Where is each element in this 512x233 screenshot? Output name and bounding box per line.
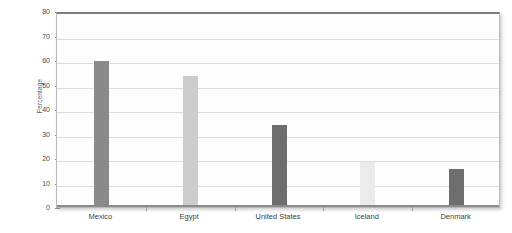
- bar-chart-figure: Percentage 01020304050607080 MexicoEgypt…: [0, 0, 512, 233]
- y-axis-tick-label: 10: [28, 180, 50, 188]
- bar-series: [57, 14, 499, 207]
- y-axis-tick-label: 60: [28, 57, 50, 65]
- bar[interactable]: [449, 169, 464, 206]
- y-axis-tick-label: 0: [28, 204, 50, 212]
- x-axis-category-label: United States: [255, 212, 300, 221]
- y-axis-tick-label: 80: [28, 8, 50, 16]
- y-axis-tick-label: 20: [28, 155, 50, 163]
- y-axis-tick-mark: [55, 208, 60, 209]
- x-axis-tick-mark: [323, 207, 324, 211]
- bar[interactable]: [272, 125, 287, 206]
- y-axis-tick-label: 40: [28, 106, 50, 114]
- y-axis-tick-label: 50: [28, 82, 50, 90]
- x-axis-category-label: Mexico: [89, 212, 113, 221]
- x-axis-tick-mark: [235, 207, 236, 211]
- bar[interactable]: [183, 76, 198, 206]
- x-axis-category-label: Denmark: [440, 212, 470, 221]
- y-axis-tick-labels: 01020304050607080: [28, 12, 50, 208]
- x-axis-category-labels: MexicoEgyptUnited StatesIcelandDenmark: [56, 212, 500, 228]
- x-axis-category-label: Iceland: [355, 212, 379, 221]
- plot-area: [56, 12, 500, 208]
- x-axis-baseline: [57, 205, 499, 207]
- x-axis-category-label: Egypt: [180, 212, 199, 221]
- bar[interactable]: [94, 61, 109, 206]
- x-axis-tick-mark: [412, 207, 413, 211]
- x-axis-tick-mark: [146, 207, 147, 211]
- bar[interactable]: [360, 162, 375, 206]
- y-axis-tick-label: 30: [28, 131, 50, 139]
- y-axis-tick-label: 70: [28, 33, 50, 41]
